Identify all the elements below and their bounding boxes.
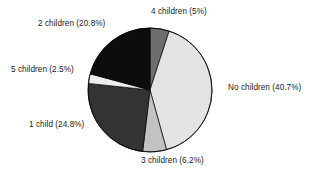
pie-label-no-children: No children (40.7%) <box>228 84 301 92</box>
pie-label-3-children: 3 children (6.2%) <box>141 157 204 165</box>
pie-slices-group <box>88 28 212 152</box>
pie-label-5-children: 5 children (2.5%) <box>11 66 74 74</box>
pie-slice-1-child <box>88 83 150 151</box>
pie-chart-figure: 4 children (5%) No children (40.7%) 3 ch… <box>0 0 313 181</box>
pie-label-1-child: 1 child (24.8%) <box>29 121 84 129</box>
pie-label-4-children: 4 children (5%) <box>151 8 207 16</box>
pie-label-2-children: 2 children (20.8%) <box>38 20 105 28</box>
